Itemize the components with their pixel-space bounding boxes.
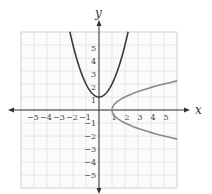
y-tick-label: −2 [84,132,96,141]
y-tick-label: −3 [84,145,96,154]
x-tick-label: −4 [40,113,52,122]
y-tick-label: 2 [91,83,96,92]
x-tick-label: 3 [137,113,142,122]
x-axis-right-arrow-icon [184,108,190,113]
y-axis-down-arrow-icon [97,188,102,194]
graph: −5−4−3−2−112345−5−4−3−2−112345 x y [0,0,212,194]
x-tick-label: −2 [66,113,78,122]
x-tick-label: −3 [53,113,65,122]
y-tick-label: 4 [91,57,96,66]
y-tick-label: 1 [91,96,96,105]
x-axis-left-arrow-icon [8,108,14,113]
x-tick-label: 4 [150,113,155,122]
y-tick-label: 5 [91,44,96,53]
y-tick-label: 3 [91,70,96,79]
x-axis-label: x [195,103,202,117]
y-axis-up-arrow-icon [97,20,102,26]
y-tick-label: −1 [84,119,96,128]
y-axis-label: y [94,6,102,20]
x-tick-label: 5 [163,113,168,122]
x-tick-label: 2 [124,113,129,122]
y-tick-label: −5 [84,171,96,180]
x-tick-label: −5 [27,113,39,122]
y-tick-label: −4 [84,158,96,167]
